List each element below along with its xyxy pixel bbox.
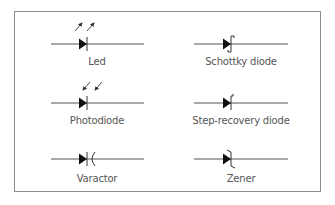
- step-recovery-diode-label: Step-recovery diode: [171, 115, 311, 126]
- photodiode-label: Photodiode: [27, 115, 167, 126]
- zener-diode-symbol-icon: [194, 150, 288, 168]
- varactor-symbol-icon: [51, 152, 144, 166]
- led-symbol-icon: [51, 23, 144, 51]
- step-recovery-diode-symbol-icon: [194, 94, 288, 110]
- led-label: Led: [27, 56, 167, 67]
- zener-label: Zener: [171, 173, 311, 184]
- schottky-diode-label: Schottky diode: [171, 56, 311, 67]
- schottky-diode-symbol-icon: [194, 36, 288, 52]
- varactor-label: Varactor: [27, 173, 167, 184]
- photodiode-symbol-icon: [51, 82, 144, 110]
